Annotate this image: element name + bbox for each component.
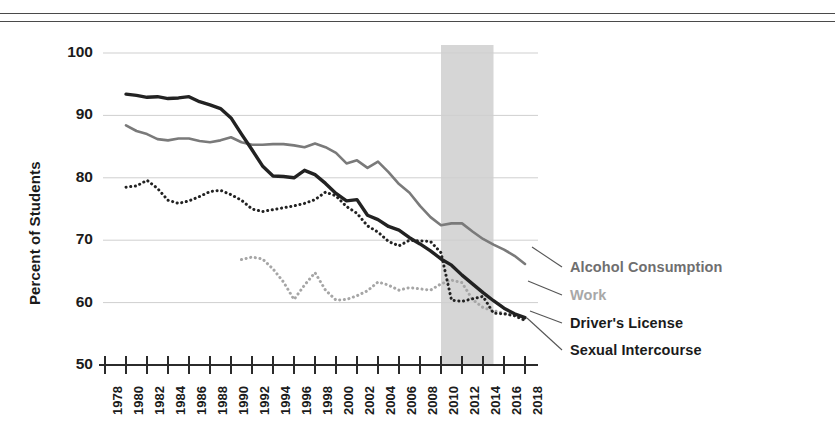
x-tick-label: 1998 — [320, 386, 335, 415]
legend-leader-lines — [527, 247, 562, 350]
x-tick-label: 1982 — [152, 386, 167, 415]
legend-leader-line — [528, 281, 562, 295]
x-tick-label: 2000 — [341, 386, 356, 415]
plot-area — [0, 0, 835, 443]
y-tick-label: 100 — [51, 43, 93, 61]
x-tick-label: 1994 — [278, 386, 293, 415]
x-tick-label: 1984 — [173, 386, 188, 415]
x-tick-label: 1980 — [131, 386, 146, 415]
x-tick-label: 2002 — [362, 386, 377, 415]
x-tick-label: 1978 — [110, 386, 125, 415]
x-tick-label: 1992 — [257, 386, 272, 415]
y-tick-label: 90 — [51, 105, 93, 123]
legend-item-sexual-intercourse: Sexual Intercourse — [570, 342, 702, 358]
x-tick-label: 1996 — [299, 386, 314, 415]
x-tick-label: 2006 — [404, 386, 419, 415]
legend-leader-line — [527, 318, 562, 350]
legend-leader-line — [532, 247, 562, 267]
shaded-band — [441, 45, 494, 365]
y-tick-label: 70 — [51, 230, 93, 248]
x-tick-label: 2010 — [446, 386, 461, 415]
chart-figure: Percent of Students 5060708090100 197819… — [0, 0, 835, 443]
x-tick-label: 2004 — [383, 386, 398, 415]
legend-item-work: Work — [570, 287, 606, 303]
x-tick-label: 2012 — [467, 386, 482, 415]
shaded-band-group — [441, 45, 494, 365]
y-tick-label: 60 — [51, 293, 93, 311]
y-tick-label: 50 — [51, 355, 93, 373]
legend-item-driver-s-license: Driver's License — [570, 315, 683, 331]
x-tick-label: 2008 — [425, 386, 440, 415]
legend-leader-line — [530, 311, 562, 323]
x-tick-label: 1988 — [215, 386, 230, 415]
x-tick-label: 1986 — [194, 386, 209, 415]
x-tick-group — [105, 356, 525, 374]
x-tick-label: 2014 — [488, 386, 503, 415]
x-tick-label: 2018 — [530, 386, 545, 415]
legend-item-alcohol-consumption: Alcohol Consumption — [570, 259, 723, 275]
y-tick-label: 80 — [51, 168, 93, 186]
x-tick-label: 2016 — [509, 386, 524, 415]
x-tick-label: 1990 — [236, 386, 251, 415]
